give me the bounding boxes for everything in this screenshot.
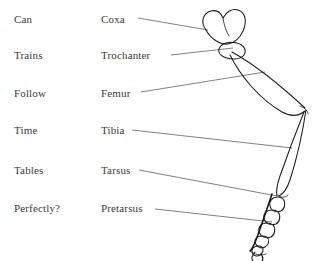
leader-line-tarsus — [139, 170, 277, 196]
coxa-cleft — [223, 18, 229, 36]
leader-line-pretarsus — [155, 209, 272, 222]
tibia-outer-edge — [279, 110, 306, 196]
diagram-canvas: Can Trains Follow Time Tables Perfectly?… — [0, 0, 330, 261]
femur-upper-edge — [232, 52, 305, 108]
leader-line-femur — [141, 72, 265, 92]
coxa-outline — [203, 9, 245, 44]
leg-drawing — [0, 0, 330, 261]
trochanter-outline — [219, 42, 245, 59]
leader-line-tibia — [132, 130, 292, 148]
tibia-inner-edge — [277, 112, 304, 196]
leader-line-coxa — [138, 18, 208, 30]
leader-line-trochanter — [171, 48, 233, 55]
femur-lower-edge — [230, 55, 305, 115]
